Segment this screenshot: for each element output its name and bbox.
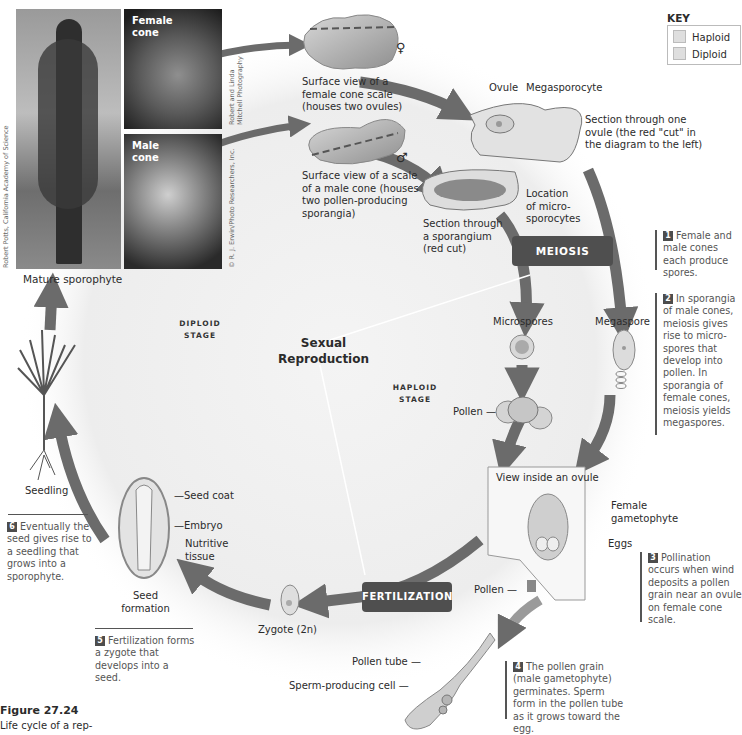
key-item-diploid: Diploid — [673, 47, 727, 62]
step-6-text: 6Eventually the seed gives rise to a see… — [7, 521, 95, 583]
male-cone-photo: Malecone — [124, 134, 222, 269]
figure-caption: Life cycle of a rep- — [0, 720, 92, 733]
seed-coat-label: —Seed coat — [174, 490, 234, 503]
pollen-label: Pollen — — [453, 406, 496, 419]
step-3-bracket — [640, 552, 642, 622]
megasporocyte-label: Megasporocyte — [526, 82, 602, 95]
diploid-swatch — [673, 47, 686, 60]
female-cone-scale-illustration — [304, 15, 398, 69]
seed-illustration — [119, 478, 169, 578]
microsporocytes-label: Locationof micro-sporocytes — [526, 188, 580, 226]
female-cone-photo: Femalecone — [124, 9, 222, 129]
step-5-text: 5Fertilization forms a zygote that devel… — [95, 635, 197, 685]
pollen-tube-label: Pollen tube — — [352, 656, 421, 669]
microspores-label: Microspores — [493, 316, 553, 329]
sporangium-section-caption: Section througha sporangium(red cut) — [423, 218, 503, 256]
zygote-label: Zygote (2n) — [258, 624, 317, 637]
seed-formation-label: Seedformation — [118, 590, 173, 615]
female-symbol: ♀ — [396, 42, 406, 55]
meiosis-label: MEIOSIS — [512, 236, 613, 266]
key-item-haploid: Haploid — [673, 30, 730, 45]
seedling-label: Seedling — [25, 485, 68, 498]
step-4-text: 4The pollen grain (male gametophyte) ger… — [513, 661, 628, 735]
female-scale-caption: Surface view of afemale cone scale(house… — [302, 76, 442, 114]
sexual-reproduction-label: SexualReproduction — [278, 335, 369, 367]
male-cone-label: Malecone — [132, 140, 159, 164]
step-4-bracket — [505, 661, 507, 719]
tree-photo-credit: Robert Potts, California Academy of Scie… — [2, 125, 10, 268]
megaspore-label: Megaspore — [595, 316, 650, 329]
nutritive-tissue-label: Nutritivetissue — [185, 538, 228, 563]
haploid-swatch — [673, 30, 686, 43]
step-1-bracket — [655, 230, 657, 270]
eggs-label: Eggs — [608, 538, 632, 551]
arrow-seedling-to-tree — [50, 290, 52, 330]
ovule-section-caption: Section through oneovule (the red "cut" … — [585, 114, 740, 152]
zygote-illustration — [281, 585, 299, 615]
step-5-bracket — [95, 628, 193, 629]
step-6-bracket — [8, 514, 88, 515]
key-title: KEY — [667, 12, 690, 25]
step-2-bracket — [655, 293, 657, 435]
male-cone-photo-credit: © R. J. Erwin/Photo Researchers, Inc. — [228, 148, 236, 268]
step-1-text: 1Female and male cones each produce spor… — [663, 230, 742, 280]
fertilization-label: FERTILIZATION — [362, 582, 452, 612]
male-scale-caption: Surface view of a scaleof a male cone (h… — [302, 170, 442, 220]
ovule-pollen-label: Pollen — — [474, 584, 517, 597]
view-inside-ovule-label: View inside an ovule — [496, 472, 599, 485]
diploid-stage-label: DIPLOIDSTAGE — [175, 318, 225, 342]
female-cone-label: Femalecone — [132, 15, 173, 39]
ovule-label: Ovule — [489, 82, 518, 95]
ovule-section-illustration — [470, 104, 582, 162]
figure-number: Figure 27.24 — [0, 705, 79, 718]
sperm-cell-label: Sperm-producing cell — — [289, 680, 409, 693]
mature-sporophyte-photo — [16, 9, 121, 269]
step-2-text: 2In sporangia of male cones, meiosis giv… — [663, 293, 742, 429]
key-legend: Haploid Diploid — [667, 25, 741, 65]
female-cone-photo-credit: Robert and LindaMitchell Photography — [228, 56, 244, 125]
step-3-text: 3Pollination occurs when wind deposits a… — [648, 552, 742, 626]
male-symbol: ♂ — [396, 152, 408, 165]
haploid-stage-label: HAPLOIDSTAGE — [390, 382, 440, 406]
embryo-label: —Embryo — [174, 520, 223, 533]
mature-sporophyte-label: Mature sporophyte — [23, 273, 122, 286]
female-gametophyte-label: Femalegametophyte — [611, 500, 678, 525]
